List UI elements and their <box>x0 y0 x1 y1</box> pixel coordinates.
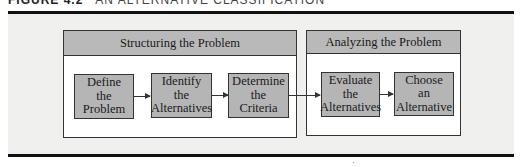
step-text-line: Evaluate <box>320 74 381 88</box>
arrow-right-icon <box>289 95 320 96</box>
arrow-right-icon <box>380 94 393 95</box>
figure-title: AN ALTERNATIVE CLASSIFICATION <box>95 0 325 7</box>
step-text-line: the <box>151 89 212 103</box>
figure-label: FIGURE 4.2 <box>8 0 83 7</box>
step-text-line: Define <box>83 76 125 90</box>
bottom-rule <box>8 154 514 157</box>
stray-dot <box>353 162 354 163</box>
step-text-line: Alternatives <box>151 102 212 116</box>
arrow-right-icon <box>212 95 228 96</box>
figure-caption: FIGURE 4.2AN ALTERNATIVE CLASSIFICATION <box>8 0 325 7</box>
step-text-line: the <box>232 89 285 103</box>
phase-analyzing-title: Analyzing the Problem <box>307 31 460 54</box>
step-text-line: Alternatives <box>320 101 381 115</box>
step-identify-alternatives: Identify the Alternatives <box>151 73 212 118</box>
step-text-line: Identify <box>151 75 212 89</box>
step-text-line: Alternative <box>396 101 452 115</box>
step-text-line: Criteria <box>232 102 285 116</box>
step-choose-alternative: Choose an Alternative <box>394 72 454 116</box>
step-text-line: Determine <box>232 75 285 89</box>
step-text-line: Choose <box>396 74 452 88</box>
step-text-line: the <box>83 90 125 104</box>
arrow-right-icon <box>134 96 150 97</box>
phase-structuring-title: Structuring the Problem <box>64 31 296 56</box>
step-text-line: an <box>396 87 452 101</box>
step-text-line: Problem <box>83 103 125 117</box>
step-determine-criteria: Determine the Criteria <box>228 73 289 118</box>
step-define-problem: Define the Problem <box>74 74 134 119</box>
step-evaluate-alternatives: Evaluate the Alternatives <box>321 72 380 117</box>
step-text-line: the <box>320 88 381 102</box>
